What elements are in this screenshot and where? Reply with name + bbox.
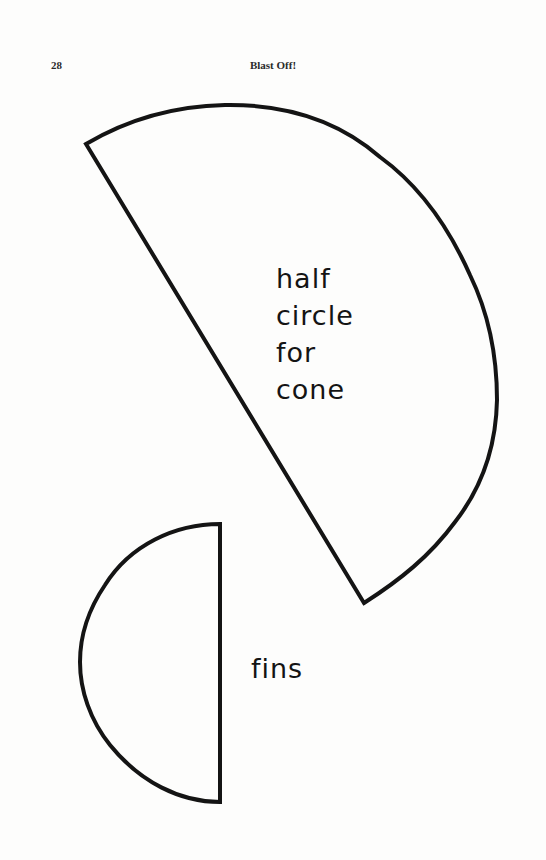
fins-label: fins — [251, 650, 303, 687]
cone-label-line: circle — [276, 297, 354, 334]
cone-label: half circle for cone — [276, 260, 354, 408]
book-page: 28 Blast Off! half circle for cone fins — [0, 0, 546, 860]
cone-label-line: for — [276, 334, 354, 371]
cone-label-line: cone — [276, 371, 354, 408]
templates-drawing — [0, 0, 546, 860]
cone-label-line: half — [276, 260, 354, 297]
fins-half-circle-outline — [80, 524, 220, 802]
